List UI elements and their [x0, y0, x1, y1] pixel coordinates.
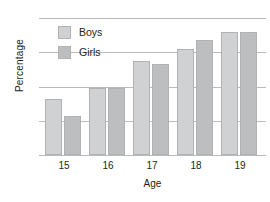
bar-boys-16	[89, 88, 106, 155]
y-axis-title: Percentage	[14, 6, 25, 126]
gridline-0	[39, 155, 266, 156]
bar-boys-19	[221, 32, 238, 155]
bar-girls-15	[64, 116, 81, 155]
bar-girls-16	[108, 88, 125, 155]
x-tick-label-17: 17	[132, 160, 172, 171]
bar-boys-15	[45, 99, 62, 156]
bar-girls-18	[196, 40, 213, 155]
bar-girls-19	[240, 32, 257, 155]
x-tick-label-15: 15	[44, 160, 84, 171]
bar-chart: Percentage 0 20 40 60 80	[0, 0, 270, 202]
chart-legend: Boys Girls	[58, 24, 102, 64]
legend-label-girls: Girls	[79, 47, 101, 58]
x-tick-label-19: 19	[220, 160, 260, 171]
legend-swatch-boys-icon	[58, 26, 71, 39]
x-tick-label-16: 16	[88, 160, 128, 171]
bar-boys-18	[177, 49, 194, 155]
gridline-80	[39, 18, 266, 19]
bar-girls-17	[152, 64, 169, 155]
legend-swatch-girls-icon	[58, 46, 71, 59]
x-tick-label-18: 18	[176, 160, 216, 171]
bar-boys-17	[133, 61, 150, 155]
legend-label-boys: Boys	[79, 27, 102, 38]
legend-item-boys: Boys	[58, 24, 102, 40]
x-axis-title: Age	[39, 178, 266, 189]
legend-item-girls: Girls	[58, 44, 102, 60]
